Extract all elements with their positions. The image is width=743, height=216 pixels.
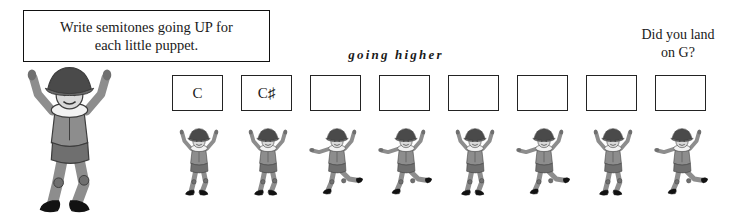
instruction-text: Write semitones going UP for each little… bbox=[54, 18, 239, 55]
instruction-box: Write semitones going UP for each little… bbox=[23, 10, 270, 62]
small-puppet-3 bbox=[309, 108, 365, 212]
small-puppet-1 bbox=[171, 108, 227, 212]
answer-box-value: C bbox=[192, 85, 202, 102]
small-puppet-7 bbox=[585, 108, 641, 212]
answer-box-3[interactable] bbox=[310, 75, 361, 111]
answer-box-7[interactable] bbox=[586, 75, 637, 111]
going-higher-caption: going higher bbox=[326, 47, 466, 63]
answer-box-8[interactable] bbox=[655, 75, 706, 111]
small-puppet-2 bbox=[240, 108, 296, 212]
answer-box-2[interactable]: C♯ bbox=[241, 75, 292, 111]
small-puppet-5 bbox=[447, 108, 503, 212]
small-puppet-6 bbox=[516, 108, 572, 212]
answer-box-4[interactable] bbox=[379, 75, 430, 111]
answer-box-6[interactable] bbox=[517, 75, 568, 111]
worksheet-canvas: Write semitones going UP for each little… bbox=[0, 0, 743, 216]
answer-box-value: C♯ bbox=[258, 85, 276, 102]
small-puppet-8 bbox=[654, 108, 710, 212]
big-puppet bbox=[2, 58, 137, 213]
landing-question-caption: Did you land on G? bbox=[627, 26, 729, 61]
answer-box-5[interactable] bbox=[448, 75, 499, 111]
small-puppet-4 bbox=[378, 108, 434, 212]
answer-box-1[interactable]: C bbox=[172, 75, 223, 111]
